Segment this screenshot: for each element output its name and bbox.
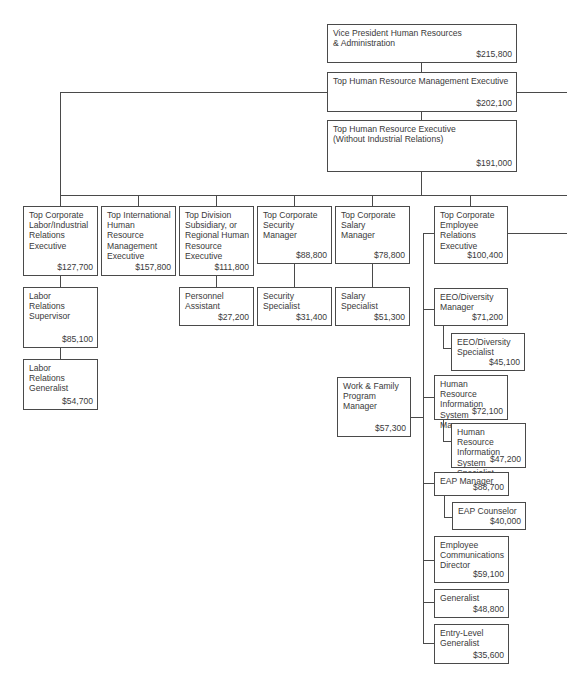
connector: [444, 517, 452, 518]
connector: [443, 441, 451, 442]
node-salary: $45,100: [489, 357, 520, 367]
node-salary: $57,300: [375, 423, 406, 433]
node-security-manager: Top Corporate Security Manager $88,800: [257, 206, 332, 264]
node-salary: $78,800: [374, 250, 405, 260]
node-title: Work & Family Program Manager: [343, 381, 406, 412]
connector: [444, 495, 445, 517]
connector: [421, 111, 422, 120]
node-title: Top Division Subsidiary, or Regional Hum…: [185, 210, 249, 261]
node-salary: $202,100: [476, 98, 512, 108]
node-title: EAP Counselor: [458, 506, 521, 516]
node-salary: $88,800: [296, 250, 327, 260]
connector: [372, 264, 373, 287]
node-work-family-program-manager: Work & Family Program Manager $57,300: [337, 377, 411, 437]
connector: [372, 195, 373, 206]
node-labor-industrial-relations-executive: Top Corporate Labor/Industrial Relations…: [23, 206, 98, 276]
node-title: EEO/Diversity Manager: [440, 292, 503, 312]
connector: [294, 195, 295, 206]
connector: [423, 233, 424, 643]
node-title: Labor Relations Generalist: [29, 363, 93, 394]
node-salary: $54,700: [62, 396, 93, 406]
node-title: Top Corporate Salary Manager: [341, 210, 405, 241]
node-salary-manager: Top Corporate Salary Manager $78,800: [335, 206, 410, 264]
node-salary: $157,800: [135, 262, 171, 272]
node-security-specialist: Security Specialist $31,400: [257, 287, 332, 326]
node-salary: $72,100: [472, 406, 503, 416]
connector: [60, 348, 61, 359]
node-salary: $59,100: [473, 569, 504, 579]
connector: [138, 195, 139, 206]
node-salary: $215,800: [476, 49, 512, 59]
node-title: Top International Human Resource Managem…: [107, 210, 171, 261]
node-eap-counselor: EAP Counselor $40,000: [452, 502, 526, 530]
connector: [423, 483, 434, 484]
connector: [470, 195, 471, 206]
node-salary: $40,000: [490, 516, 521, 526]
node-hris-manager: Human Resource Information System Manage…: [434, 375, 508, 420]
connector: [60, 195, 61, 206]
node-title: Personnel Assistant: [185, 291, 249, 311]
node-top-hr-management-executive: Top Human Resource Management Executive …: [327, 72, 517, 112]
node-salary: $31,400: [296, 312, 327, 322]
node-division-hr-executive: Top Division Subsidiary, or Regional Hum…: [179, 206, 254, 276]
connector: [423, 602, 434, 603]
node-title: Employee Communications Director: [440, 540, 504, 571]
node-title: Top Corporate Labor/Industrial Relations…: [29, 210, 93, 251]
connector: [421, 171, 422, 195]
node-salary: $85,100: [62, 334, 93, 344]
node-title: Entry-Level Generalist: [440, 628, 504, 648]
node-eeo-diversity-manager: EEO/Diversity Manager $71,200: [434, 288, 508, 326]
node-salary: $71,200: [472, 312, 503, 322]
node-title: Human Resource Information System Specia…: [457, 427, 521, 478]
connector: [60, 92, 61, 195]
node-title: Salary Specialist: [341, 291, 405, 311]
connector: [421, 62, 422, 72]
connector: [423, 643, 434, 644]
connector: [410, 417, 423, 418]
node-top-hr-executive-no-ir: Top Human Resource Executive (Without In…: [327, 120, 517, 172]
node-title: Generalist: [440, 593, 504, 603]
connector: [443, 348, 451, 349]
node-title: Top Corporate Employee Relations Executi…: [440, 210, 503, 251]
node-salary: $27,200: [218, 312, 249, 322]
node-labor-relations-supervisor: Labor Relations Supervisor $85,100: [23, 287, 98, 348]
connector: [216, 195, 217, 206]
node-salary: $88,700: [473, 482, 504, 492]
connector: [294, 264, 295, 287]
node-salary: $191,000: [476, 158, 512, 168]
node-title: EEO/Diversity Specialist: [457, 337, 520, 357]
connector: [60, 195, 567, 196]
node-title: Top Human Resource Management Executive: [333, 76, 512, 86]
connector: [423, 233, 434, 234]
node-salary: $100,400: [467, 250, 503, 260]
node-eap-manager: EAP Manager $88,700: [434, 472, 509, 496]
node-generalist: Generalist $48,800: [434, 589, 509, 618]
node-employee-communications-director: Employee Communications Director $59,100: [434, 536, 509, 583]
connector: [60, 92, 327, 93]
node-salary: $35,600: [473, 650, 504, 660]
node-title: Security Specialist: [263, 291, 327, 311]
node-salary: $48,800: [473, 604, 504, 614]
node-international-hr-executive: Top International Human Resource Managem…: [101, 206, 176, 276]
connector: [516, 92, 567, 93]
node-salary-specialist: Salary Specialist $51,300: [335, 287, 410, 326]
node-title: Top Human Resource Executive (Without In…: [333, 124, 512, 144]
connector: [60, 276, 61, 287]
connector: [443, 326, 444, 348]
node-salary: $127,700: [57, 262, 93, 272]
node-vice-president-hr: Vice President Human Resources & Adminis…: [327, 24, 517, 63]
connector: [423, 397, 434, 398]
connector: [507, 233, 567, 234]
node-salary: $47,200: [490, 454, 521, 464]
node-labor-relations-generalist: Labor Relations Generalist $54,700: [23, 359, 98, 410]
node-title: Labor Relations Supervisor: [29, 291, 93, 322]
node-employee-relations-executive: Top Corporate Employee Relations Executi…: [434, 206, 508, 264]
connector: [216, 276, 217, 287]
node-title: Vice President Human Resources & Adminis…: [333, 28, 512, 48]
node-entry-level-generalist: Entry-Level Generalist $35,600: [434, 624, 509, 664]
connector: [423, 309, 434, 310]
node-eeo-diversity-specialist: EEO/Diversity Specialist $45,100: [451, 333, 525, 371]
connector: [423, 560, 434, 561]
node-salary: $111,800: [214, 262, 249, 272]
node-hris-specialist: Human Resource Information System Specia…: [451, 423, 526, 468]
